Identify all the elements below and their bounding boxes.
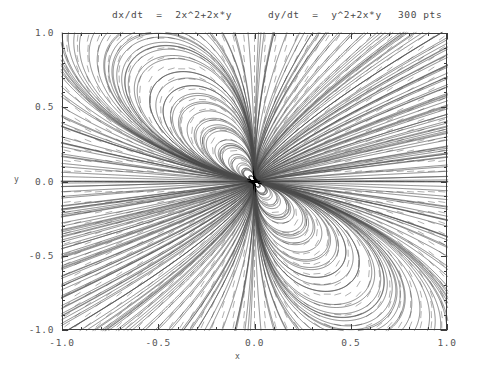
field-dash — [244, 311, 245, 318]
field-dash — [264, 301, 265, 308]
field-dash — [264, 86, 265, 93]
field-dash — [116, 160, 123, 162]
field-dash — [293, 262, 299, 265]
field-dash — [180, 322, 184, 328]
field-dash — [428, 191, 435, 192]
field-dash — [97, 76, 99, 83]
field-dash — [149, 76, 153, 82]
field-dash — [274, 311, 276, 318]
field-dash — [106, 252, 112, 255]
field-dash — [189, 108, 195, 112]
field-dash — [233, 301, 235, 308]
field-dash — [303, 252, 310, 254]
field-dash — [418, 231, 424, 234]
field-dash — [265, 45, 266, 52]
axis-title-y: y — [14, 175, 19, 184]
field-dash — [420, 321, 422, 328]
field-dash — [105, 171, 112, 172]
field-dash — [157, 48, 164, 49]
field-dash — [105, 191, 112, 192]
y-tick-label: 0.0 — [20, 176, 54, 187]
field-dash — [168, 68, 175, 70]
field-dash — [140, 86, 141, 93]
field-dash — [389, 291, 390, 298]
field-dash — [97, 35, 100, 42]
y-tick-label: 1.0 — [20, 27, 54, 38]
field-dash — [264, 55, 265, 62]
field-dash — [407, 171, 414, 172]
field-dash — [386, 201, 393, 203]
field-dash — [296, 209, 297, 216]
field-dash — [326, 35, 330, 41]
field-dash — [264, 280, 265, 287]
field-dash — [74, 191, 81, 192]
field-dash — [275, 45, 276, 52]
field-dash — [378, 291, 380, 298]
field-dash — [75, 118, 81, 122]
field-dash — [107, 35, 111, 41]
field-dash — [220, 130, 227, 131]
field-dash — [313, 273, 320, 274]
field-dash — [129, 86, 130, 93]
field-dash — [213, 147, 214, 154]
field-dash — [119, 65, 120, 72]
x-tick-label: -1.0 — [42, 337, 82, 348]
x-tick-label: 1.0 — [427, 337, 467, 348]
field-dash — [441, 311, 442, 318]
field-dash — [274, 76, 276, 83]
field-dash — [418, 191, 425, 192]
field-dash — [64, 202, 71, 203]
field-dash — [264, 106, 265, 113]
field-dash — [87, 35, 89, 42]
field-dash — [74, 202, 81, 203]
field-dash — [157, 191, 164, 192]
field-dash — [168, 77, 174, 80]
field-dash — [128, 66, 130, 73]
field-dash — [285, 45, 287, 52]
field-dash — [345, 292, 351, 296]
field-dash — [430, 291, 432, 298]
field-dash — [304, 292, 310, 296]
field-dash — [409, 271, 412, 277]
axis-title-x: x — [235, 352, 240, 361]
field-dash — [244, 35, 245, 42]
field-dash — [407, 191, 414, 192]
plot-canvas — [0, 0, 482, 369]
field-dash — [244, 55, 245, 62]
streamline — [255, 182, 448, 308]
field-dash — [211, 138, 215, 144]
field-dash — [118, 55, 120, 62]
field-dash — [85, 313, 91, 317]
field-dash — [357, 281, 361, 287]
y-tick-label: -0.5 — [20, 250, 54, 261]
field-dash — [336, 260, 340, 266]
field-dash — [397, 150, 404, 152]
field-dash — [244, 301, 245, 308]
x-tick-label: 0.5 — [331, 337, 371, 348]
field-dash — [438, 161, 445, 162]
field-dash — [418, 119, 424, 122]
field-dash — [67, 45, 68, 52]
field-dash — [117, 292, 122, 296]
field-dash — [126, 171, 133, 172]
field-dash — [199, 109, 206, 111]
field-dash — [428, 241, 434, 245]
field-dash — [355, 171, 362, 172]
field-dash — [264, 311, 265, 318]
field-dash — [169, 97, 173, 103]
field-dash — [418, 171, 425, 172]
field-dash — [275, 55, 277, 62]
field-dash — [87, 65, 89, 72]
field-dash — [160, 96, 162, 103]
field-dash — [345, 191, 352, 192]
field-dash — [189, 89, 196, 90]
field-dash — [368, 260, 369, 267]
field-dash — [408, 77, 414, 81]
field-dash — [140, 96, 141, 103]
field-dash — [244, 45, 245, 52]
field-dash — [147, 191, 154, 192]
field-dash — [64, 160, 71, 161]
field-dash — [334, 293, 341, 295]
field-dash — [334, 314, 341, 315]
field-dash — [315, 240, 319, 246]
